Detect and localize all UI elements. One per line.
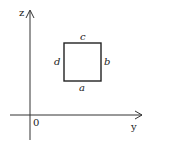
y-axis-label: y <box>130 121 137 132</box>
side-label-right: b <box>104 56 110 67</box>
coordinate-diagram: z y 0 c b a d <box>0 0 170 145</box>
side-label-top: c <box>80 31 86 42</box>
side-label-left: d <box>54 56 60 67</box>
square-loop <box>64 43 101 81</box>
z-axis-label: z <box>19 7 24 18</box>
origin-label: 0 <box>33 117 39 128</box>
side-label-bottom: a <box>79 82 85 93</box>
